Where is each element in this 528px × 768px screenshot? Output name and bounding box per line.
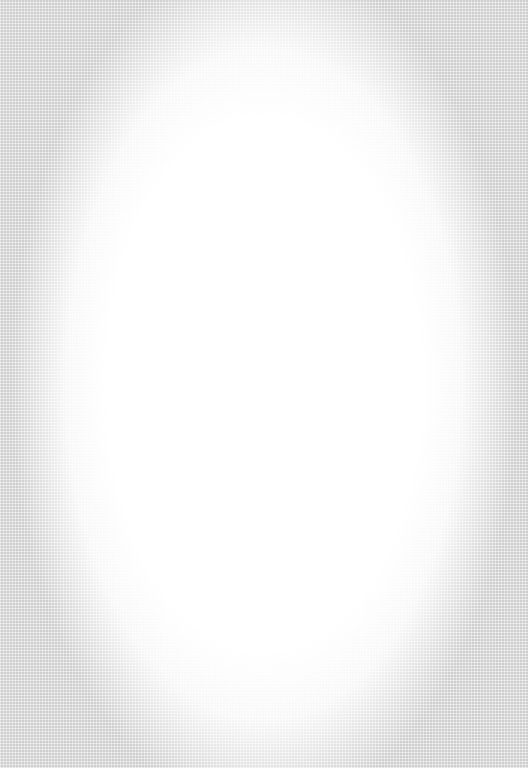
textured-background [0,0,528,768]
center-vignette [0,0,528,768]
